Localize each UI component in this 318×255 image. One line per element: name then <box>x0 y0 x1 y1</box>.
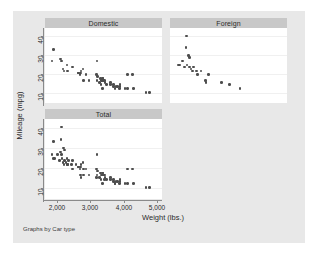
scatter-point <box>119 85 122 88</box>
scatter-point <box>145 91 148 94</box>
panel-domestic: Domestic <box>45 18 162 103</box>
x-tick-label: 5,000 <box>143 204 171 211</box>
x-tick <box>90 201 91 203</box>
plot-area-domestic <box>45 28 162 103</box>
x-tick <box>157 201 158 203</box>
scatter-point <box>185 35 188 38</box>
graph-note: Graphs by Car type <box>23 226 75 232</box>
x-tick <box>57 201 58 203</box>
scatter-point <box>70 163 73 166</box>
scatter-point <box>181 60 184 63</box>
scatter-point <box>119 180 122 183</box>
scatter-point <box>207 73 210 76</box>
scatter-point <box>88 174 91 177</box>
x-axis-line <box>44 200 162 201</box>
scatter-point <box>132 87 135 90</box>
scatter-point <box>82 161 85 164</box>
scatter-point <box>96 153 99 156</box>
scatter-point <box>101 87 104 90</box>
scatter-point <box>196 73 199 76</box>
scatter-point <box>52 48 55 51</box>
plot-area-total <box>45 119 162 199</box>
panel-title-foreign: Foreign <box>170 18 287 28</box>
scatter-point <box>220 81 223 84</box>
gridline <box>170 74 287 75</box>
scatter-point <box>82 79 85 82</box>
panel-foreign: Foreign <box>170 18 287 103</box>
scatter-point <box>191 70 194 73</box>
scatter-point <box>63 149 66 152</box>
scatter-point <box>131 168 134 171</box>
scatter-point <box>96 60 99 63</box>
gridline <box>45 128 162 129</box>
x-tick-label: 2,000 <box>43 204 71 211</box>
gridline <box>45 74 162 75</box>
scatter-point <box>185 46 188 49</box>
scatter-point <box>51 153 54 156</box>
scatter-point <box>105 178 108 181</box>
graph-screenshot: Mileage (mpg) Domestic Foreign <box>0 0 318 255</box>
gridline <box>45 36 162 37</box>
scatter-point <box>63 70 66 73</box>
stata-graph-canvas: Mileage (mpg) Domestic Foreign <box>13 11 305 243</box>
scatter-point <box>85 168 88 171</box>
y-axis-title: Mileage (mpg) <box>15 66 24 166</box>
scatter-point <box>60 138 63 141</box>
scatter-point <box>131 73 134 76</box>
scatter-point <box>101 182 104 185</box>
scatter-point <box>148 186 151 189</box>
scatter-point <box>178 64 181 67</box>
scatter-point <box>188 56 191 59</box>
scatter-point <box>66 64 69 67</box>
x-tick <box>124 201 125 203</box>
scatter-point <box>132 182 135 185</box>
plot-area-foreign <box>170 28 287 103</box>
panel-total: Total <box>45 109 162 199</box>
scatter-point <box>71 168 74 171</box>
scatter-point <box>56 153 59 156</box>
gridline <box>45 55 162 56</box>
panel-title-domestic: Domestic <box>45 18 162 28</box>
scatter-point <box>126 87 129 90</box>
gridline <box>170 93 287 94</box>
scatter-point <box>71 66 74 69</box>
scatter-point <box>53 157 56 160</box>
scatter-point <box>85 73 88 76</box>
scatter-point <box>126 168 129 171</box>
scatter-point <box>63 163 66 166</box>
scatter-point <box>100 178 103 181</box>
scatter-point <box>192 66 195 69</box>
scatter-point <box>88 79 91 82</box>
scatter-point <box>71 159 74 162</box>
scatter-point <box>205 81 208 84</box>
scatter-point <box>80 176 83 179</box>
scatter-point <box>67 159 70 162</box>
scatter-point <box>195 70 198 73</box>
panel-title-total: Total <box>45 109 162 119</box>
scatter-point <box>82 68 85 71</box>
scatter-point <box>60 60 63 63</box>
x-tick-label: 3,000 <box>76 204 104 211</box>
scatter-point <box>66 163 69 166</box>
scatter-point <box>126 73 129 76</box>
scatter-point <box>51 60 54 63</box>
x-axis-title: Weight (lbs.) <box>123 213 203 222</box>
scatter-point <box>239 87 242 90</box>
gridline <box>45 168 162 169</box>
scatter-point <box>105 83 108 86</box>
scatter-point <box>183 66 186 69</box>
scatter-point <box>60 153 63 156</box>
scatter-point <box>66 70 69 73</box>
scatter-point <box>82 174 85 177</box>
scatter-point <box>126 182 129 185</box>
scatter-point <box>148 91 151 94</box>
scatter-point <box>228 83 231 86</box>
scatter-point <box>79 73 82 76</box>
scatter-point <box>52 140 55 143</box>
x-tick-label: 4,000 <box>110 204 138 211</box>
scatter-point <box>100 83 103 86</box>
scatter-point <box>200 70 203 73</box>
